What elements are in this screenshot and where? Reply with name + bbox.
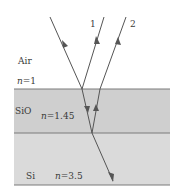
sio-layer bbox=[14, 89, 170, 133]
air-equals: = bbox=[23, 76, 31, 86]
si-layer bbox=[14, 133, 170, 185]
reflected-1-arrow-icon bbox=[94, 36, 100, 44]
thin-film-diagram: 1 2 Air n=1 SiO n=1.45 Si n=3.5 bbox=[0, 0, 178, 194]
air-n-value: 1 bbox=[30, 76, 36, 86]
sio-index-label: n=1.45 bbox=[41, 111, 75, 121]
si-label: Si bbox=[26, 171, 35, 181]
ray-1-label: 1 bbox=[90, 19, 96, 29]
air-label: Air bbox=[17, 56, 32, 66]
ray-2-label: 2 bbox=[130, 19, 136, 29]
si-equals: = bbox=[61, 171, 69, 181]
incident-arrow-icon bbox=[62, 40, 68, 48]
si-n-value: 3.5 bbox=[68, 171, 83, 181]
air-index-label: n=1 bbox=[17, 76, 36, 86]
reflected-ray-2 bbox=[100, 17, 126, 89]
reflected-2-arrow-icon bbox=[115, 37, 121, 45]
sio-n-value: 1.45 bbox=[54, 111, 74, 121]
sio-equals: = bbox=[47, 111, 55, 121]
si-index-label: n=3.5 bbox=[55, 171, 83, 181]
incident-ray bbox=[50, 17, 82, 89]
sio-label: SiO bbox=[15, 106, 31, 116]
